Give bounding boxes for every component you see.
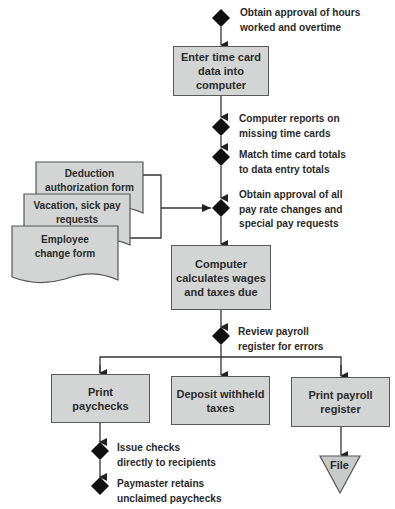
document-vacation-form: Vacation, sick payrequests [28, 198, 126, 226]
document-employee-change-form: Employeechange form [16, 232, 114, 260]
diamond-icon [212, 199, 230, 217]
control-review-register: Review payrollregister for errors [238, 324, 324, 353]
control-text: register for errors [238, 339, 324, 354]
document-text: change form [16, 246, 114, 260]
document-text: Deduction [40, 166, 138, 180]
control-text: Obtain approval of hours [240, 5, 360, 20]
control-text: missing time cards [239, 126, 340, 141]
control-text: Paymaster retains [117, 476, 222, 491]
control-text: Issue checks [117, 440, 216, 455]
control-text: directly to recipients [117, 455, 216, 470]
control-text: Obtain approval of all [239, 187, 343, 202]
control-text: to data entry totals [239, 162, 346, 177]
process-text: taxes [177, 401, 265, 415]
process-text: and taxes due [176, 285, 266, 299]
control-paymaster: Paymaster retainsunclaimed paychecks [117, 476, 222, 505]
control-text: unclaimed paychecks [117, 491, 222, 506]
document-deduction-form: Deductionauthorization form [40, 166, 138, 194]
diamond-icon [91, 477, 109, 495]
process-text: register [308, 402, 372, 416]
document-text: Employee [16, 232, 114, 246]
control-text: special pay requests [239, 216, 343, 231]
control-missing-cards: Computer reports onmissing time cards [239, 111, 340, 140]
diamond-icon [212, 327, 230, 345]
diamond-icon [212, 9, 230, 27]
control-issue-checks: Issue checksdirectly to recipients [117, 440, 216, 469]
process-text: data into computer [178, 64, 264, 92]
control-approve-hours: Obtain approval of hoursworked and overt… [240, 5, 360, 34]
process-text: Deposit withheld [177, 387, 265, 401]
document-text: authorization form [40, 180, 138, 194]
process-text: Print [72, 385, 128, 399]
process-text: calculates wages [176, 271, 266, 285]
process-text: paychecks [72, 399, 128, 413]
control-approve-rates: Obtain approval of allpay rate changes a… [239, 187, 343, 231]
process-enter-time-card: Enter time carddata into computer [173, 46, 269, 96]
process-print-register: Print payrollregister [291, 377, 390, 427]
process-print-paychecks: Printpaychecks [51, 374, 150, 423]
control-text: Review payroll [238, 324, 324, 339]
control-match-totals: Match time card totalsto data entry tota… [239, 147, 346, 176]
process-calculate-wages: Computercalculates wagesand taxes due [171, 245, 271, 310]
document-text: Vacation, sick pay [28, 198, 126, 212]
document-text: requests [28, 212, 126, 226]
control-text: pay rate changes and [239, 202, 343, 217]
process-deposit-taxes: Deposit withheldtaxes [171, 376, 270, 425]
diamond-icon [91, 442, 109, 460]
process-text: Computer [176, 257, 266, 271]
control-text: worked and overtime [240, 20, 360, 35]
file-label: File [330, 459, 349, 471]
process-text: Print payroll [308, 388, 372, 402]
diamond-icon [212, 148, 230, 166]
process-text: Enter time card [178, 50, 264, 64]
control-text: Computer reports on [239, 111, 340, 126]
diamond-icon [212, 118, 230, 136]
control-text: Match time card totals [239, 147, 346, 162]
